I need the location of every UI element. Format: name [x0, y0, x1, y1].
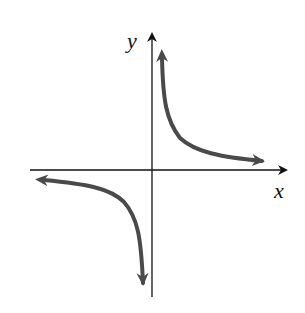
curve-branch-quadrant-3: [44, 180, 143, 283]
x-axis-label: x: [274, 180, 284, 202]
curve-branch-quadrant-1: [162, 58, 262, 161]
graph-figure: y x: [0, 0, 305, 313]
y-axis-label: y: [127, 30, 137, 52]
hyperbola-plot: [0, 0, 305, 313]
